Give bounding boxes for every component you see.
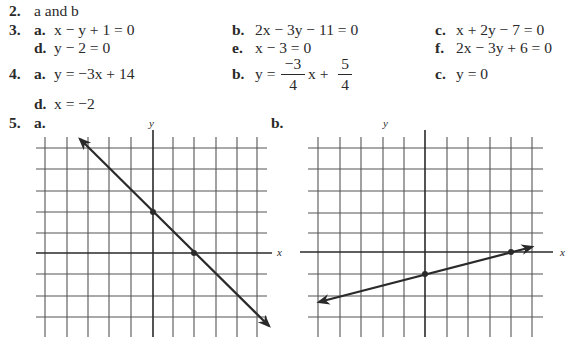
graph-b-point-y-intercept <box>422 271 428 277</box>
graphs-canvas <box>0 0 577 337</box>
graph-a-point-y-intercept <box>150 209 156 215</box>
graph-a-grid <box>36 137 267 337</box>
graph-b-point-x-intercept <box>508 249 514 255</box>
graph-a-point-x-intercept <box>191 250 197 256</box>
